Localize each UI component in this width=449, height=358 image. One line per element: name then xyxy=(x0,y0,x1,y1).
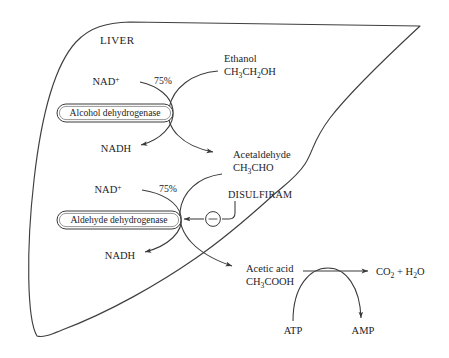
disulfiram-label: DISULFIRAM xyxy=(228,189,292,200)
acetaldehyde-name: Acetaldehyde xyxy=(233,149,291,160)
nad-plus-label-2: NAD+ xyxy=(94,183,121,195)
atp-label: ATP xyxy=(284,325,303,336)
nad-plus-label-1: NAD+ xyxy=(92,75,119,87)
enzyme-label-1: Alcohol dehydrogenase xyxy=(70,107,161,118)
amp-label: AMP xyxy=(352,325,375,336)
ethanol-node: Ethanol CH3CH2OH xyxy=(224,53,276,80)
acetaldehyde-node: Acetaldehyde CH3CHO xyxy=(233,149,291,176)
enzyme-box-aldehyde-dehydrogenase[interactable]: Aldehyde dehydrogenase xyxy=(57,211,181,229)
enzyme-label-2: Aldehyde dehydrogenase xyxy=(70,214,167,225)
ethanol-formula: CH3CH2OH xyxy=(224,66,276,80)
liver-label: LIVER xyxy=(100,34,135,46)
nadh-label-1: NADH xyxy=(101,143,132,154)
ethanol-name: Ethanol xyxy=(224,53,257,64)
atp-to-amp-arc xyxy=(293,268,361,321)
yield-label-2: 75% xyxy=(159,183,177,194)
ethanol-to-acetaldehyde-arrow xyxy=(168,71,218,152)
inhibition-group: DISULFIRAM xyxy=(184,189,292,226)
diagram-canvas: LIVER Alcohol dehydrogenase NAD+ 75% NAD… xyxy=(0,0,449,358)
step3-reaction-group: Acetic acid CH3COOH ATP AMP CO2 + H2O xyxy=(246,263,425,336)
enzyme-box-alcohol-dehydrogenase[interactable]: Alcohol dehydrogenase xyxy=(57,104,173,122)
yield-label-1: 75% xyxy=(154,75,172,86)
acetic-acid-name: Acetic acid xyxy=(246,263,294,274)
step1-reaction-group: Alcohol dehydrogenase NAD+ 75% NADH xyxy=(57,71,218,154)
nadh-label-2: NADH xyxy=(105,250,136,261)
disulfiram-connector xyxy=(222,201,235,219)
final-products-label: CO2 + H2O xyxy=(376,266,425,280)
acetaldehyde-formula: CH3CHO xyxy=(233,162,274,176)
acetic-acid-formula: CH3COOH xyxy=(246,276,295,290)
ethanol-metabolism-diagram: LIVER Alcohol dehydrogenase NAD+ 75% NAD… xyxy=(0,0,449,358)
